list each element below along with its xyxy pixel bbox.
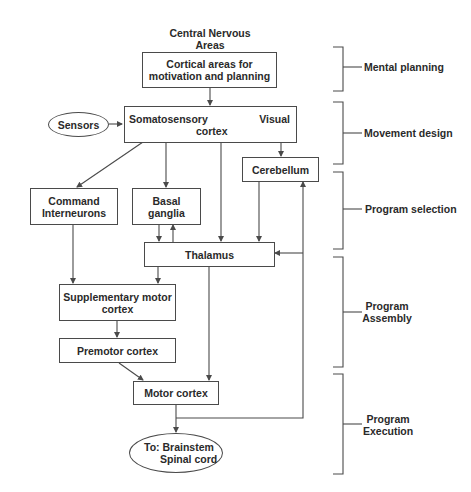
title-line1: Central Nervous [160, 27, 260, 39]
node-sensors: Sensors [48, 112, 109, 137]
stage-program-selection: Program selection [365, 203, 457, 215]
node-brainstem-spinal-cord: To: Brainstem Spinal cord [129, 433, 223, 473]
node-command-interneurons: Command Interneurons [30, 188, 118, 225]
supplementary-line2: cortex [63, 303, 172, 315]
somatosensory-label: Somatosensory [129, 113, 208, 125]
node-cerebellum: Cerebellum [242, 157, 319, 182]
cortical-line1: Cortical areas for [149, 58, 270, 70]
stage-program-execution: Program Execution [363, 413, 413, 437]
output-line1: To: Brainstem [144, 441, 217, 453]
node-cortical-areas: Cortical areas for motivation and planni… [142, 52, 277, 88]
command-line1: Command [42, 195, 106, 207]
stage-movement-design: Movement design [364, 127, 453, 139]
stage-label: Program selection [365, 203, 457, 215]
stage-mental-planning: Mental planning [364, 61, 444, 73]
cortical-line2: motivation and planning [149, 70, 270, 82]
stage-program-assembly: Program Assembly [362, 300, 412, 324]
supplementary-line1: Supplementary motor [63, 291, 172, 303]
node-somatosensory-cortex: Somatosensory Visual cortex [124, 106, 297, 143]
node-premotor-cortex: Premotor cortex [59, 338, 176, 363]
stage-label-line1: Program [362, 300, 412, 312]
sensors-label: Sensors [58, 119, 99, 131]
stage-label: Movement design [364, 127, 453, 139]
stage-label-line2: Assembly [362, 312, 412, 324]
diagram-title: Central Nervous Areas [160, 27, 260, 51]
title-line2: Areas [160, 39, 260, 51]
output-line2: Spinal cord [144, 453, 217, 465]
basal-line1: Basal [148, 195, 185, 207]
premotor-label: Premotor cortex [77, 345, 158, 357]
node-basal-ganglia: Basal ganglia [132, 188, 201, 225]
command-line2: Interneurons [42, 207, 106, 219]
stage-label: Mental planning [364, 61, 444, 73]
visual-label: Visual [259, 113, 290, 125]
cerebellum-label: Cerebellum [252, 164, 309, 176]
basal-line2: ganglia [148, 207, 185, 219]
node-motor-cortex: Motor cortex [133, 381, 219, 405]
node-thalamus: Thalamus [144, 242, 275, 267]
stage-label-line1: Program [363, 413, 413, 425]
thalamus-label: Thalamus [185, 249, 234, 261]
cortex-label: cortex [196, 125, 228, 137]
node-supplementary-motor-cortex: Supplementary motor cortex [59, 284, 176, 321]
motor-label: Motor cortex [144, 387, 208, 399]
stage-label-line2: Execution [363, 425, 413, 437]
